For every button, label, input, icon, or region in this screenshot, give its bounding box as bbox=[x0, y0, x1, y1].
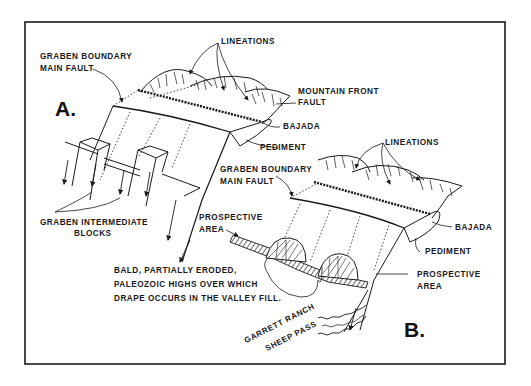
panel-a-lineations-label: LINEATIONS bbox=[221, 36, 275, 47]
panel-a-graben-intermediate-label-line1: GRABEN INTERMEDIATE bbox=[40, 217, 148, 228]
panel-b-prospective-area-right-line2: AREA bbox=[417, 281, 442, 292]
panel-b-prospective-area-right-line1: PROSPECTIVE bbox=[417, 269, 481, 280]
panel-b-bald-highs-label-line2: PALEOZOIC HIGHS OVER WHICH bbox=[114, 279, 258, 290]
panel-b-bajada-label: BAJADA bbox=[455, 222, 492, 233]
panel-b-graben-boundary-label-line1: GRABEN BOUNDARY bbox=[220, 164, 312, 175]
panel-a-graben-boundary-label-line1: GRABEN BOUNDARY bbox=[40, 51, 132, 62]
panel-a-letter: A. bbox=[55, 97, 76, 121]
panel-b-pediment-label: PEDIMENT bbox=[425, 246, 471, 257]
panel-b-letter: B. bbox=[404, 318, 425, 342]
panel-a-graben-intermediate-label-line2: BLOCKS bbox=[74, 228, 112, 239]
panel-b-bald-highs-label-line1: BALD, PARTIALLY ERODED, bbox=[114, 265, 237, 276]
panel-b-prospective-area-left-line1: PROSPECTIVE bbox=[199, 212, 263, 223]
panel-b-graben-boundary-label-line2: MAIN FAULT bbox=[220, 176, 274, 187]
panel-b-lineations-label: LINEATIONS bbox=[385, 137, 439, 148]
panel-a-pediment-label: PEDIMENT bbox=[260, 142, 306, 153]
panel-b-bald-highs-label-line3: DRAPE OCCURS IN THE VALLEY FILL. bbox=[114, 293, 281, 304]
panel-a-mountain-front-label-line2: FAULT bbox=[298, 97, 326, 108]
geologic-diagram: A. LINEATIONS GRABEN BOUNDARY MAIN FAULT… bbox=[0, 0, 531, 386]
panel-a-bajada-label: BAJADA bbox=[283, 121, 320, 132]
figure-frame bbox=[25, 22, 505, 364]
panel-a-graben-boundary-label-line2: MAIN FAULT bbox=[40, 63, 94, 74]
panel-a-mountain-front-label-line1: MOUNTAIN FRONT bbox=[298, 86, 379, 97]
panel-b-prospective-area-left-line2: AREA bbox=[199, 224, 224, 235]
